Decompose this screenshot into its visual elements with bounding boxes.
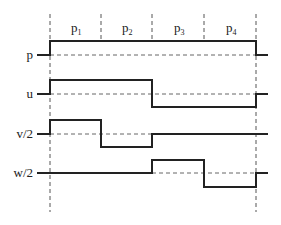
signal-label-u: u bbox=[27, 86, 34, 101]
region-label-p3: p3 bbox=[174, 20, 185, 37]
signal-labels: p u v/2 w/2 bbox=[14, 47, 34, 180]
waveforms bbox=[37, 41, 268, 187]
signal-label-w: w/2 bbox=[14, 165, 34, 180]
waveform-diagram: p1 p2 p3 p4 p u v/2 w/2 bbox=[0, 0, 281, 225]
region-boundaries bbox=[50, 14, 256, 212]
signal-label-p: p bbox=[27, 47, 34, 62]
region-label-p2: p2 bbox=[122, 20, 133, 37]
baselines bbox=[50, 55, 256, 173]
region-labels: p1 p2 p3 p4 bbox=[71, 20, 237, 37]
waveform-p bbox=[37, 41, 268, 55]
region-label-p4: p4 bbox=[226, 20, 237, 37]
region-label-p1: p1 bbox=[71, 20, 82, 37]
signal-label-v: v/2 bbox=[16, 126, 33, 141]
waveform-w bbox=[37, 160, 268, 187]
